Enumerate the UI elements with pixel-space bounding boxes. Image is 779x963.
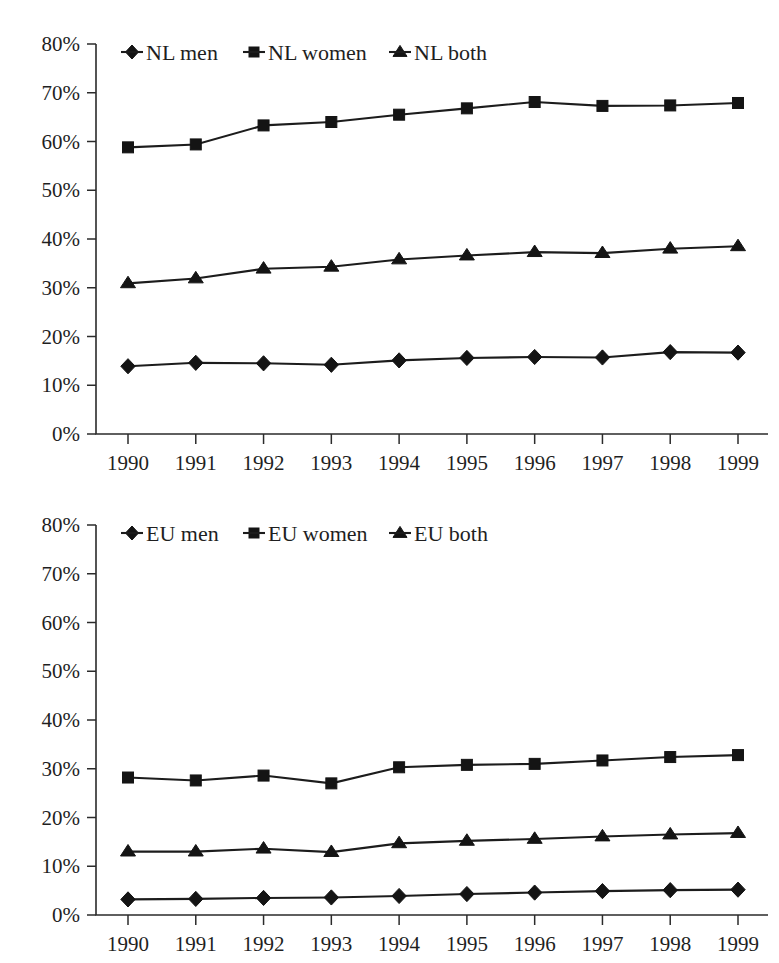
series-line-eu-women	[128, 755, 738, 783]
diamond-marker	[663, 883, 677, 898]
x-axis-tick-label: 1996	[514, 932, 556, 956]
x-axis-tick-label: 1997	[581, 932, 623, 956]
square-marker	[461, 103, 472, 114]
x-axis-tick-label: 1992	[243, 451, 285, 475]
square-marker	[461, 759, 472, 770]
series-markers-nl-both	[121, 239, 746, 288]
series-line-nl-men	[128, 352, 738, 366]
x-axis-tick-label: 1995	[446, 932, 488, 956]
x-axis-tick-label: 1997	[581, 451, 623, 475]
line-chart-eu: 0%10%20%30%40%50%60%70%80%19901991199219…	[0, 481, 779, 962]
diamond-marker	[392, 353, 406, 368]
square-marker	[123, 772, 134, 783]
y-axis-tick-label: 40%	[42, 708, 81, 732]
x-axis-tick-label: 1992	[243, 932, 285, 956]
y-axis-tick-label: 10%	[42, 373, 81, 397]
diamond-marker	[121, 359, 135, 374]
series-line-eu-both	[128, 833, 738, 852]
x-axis-tick-label: 1990	[107, 932, 149, 956]
legend-label: NL both	[414, 40, 487, 65]
triangle-marker	[188, 844, 203, 856]
y-axis-tick-label: 10%	[42, 854, 81, 878]
legend-label: NL women	[268, 40, 367, 65]
diamond-marker	[460, 350, 474, 365]
diamond-marker	[189, 891, 203, 906]
diamond-marker	[595, 884, 609, 899]
y-axis-tick-label: 30%	[42, 276, 81, 300]
x-axis-tick-label: 1996	[514, 451, 556, 475]
x-axis-tick-label: 1990	[107, 451, 149, 475]
y-axis-tick-label: 50%	[42, 178, 81, 202]
square-marker	[529, 758, 540, 769]
triangle-marker	[459, 248, 474, 260]
diamond-marker	[731, 882, 745, 897]
x-axis-tick-label: 1994	[378, 451, 421, 475]
diamond-marker	[324, 890, 338, 905]
y-axis-tick-label: 40%	[42, 227, 81, 251]
triangle-marker	[392, 252, 407, 264]
triangle-marker	[663, 827, 678, 839]
square-marker	[258, 120, 269, 131]
legend-item-nl-both: NL both	[389, 40, 487, 65]
legend-item-eu-both: EU both	[389, 521, 488, 546]
y-axis-tick-label: 80%	[42, 513, 81, 537]
line-chart-nl: 0%10%20%30%40%50%60%70%80%19901991199219…	[0, 0, 779, 481]
triangle-marker	[731, 826, 746, 838]
series-line-nl-both	[128, 246, 738, 283]
y-axis-tick-label: 60%	[42, 130, 81, 154]
y-axis-tick-label: 30%	[42, 757, 81, 781]
figure-page: 0%10%20%30%40%50%60%70%80%19901991199219…	[0, 0, 779, 963]
square-marker	[665, 100, 676, 111]
legend-triangle-marker-icon	[393, 526, 407, 537]
triangle-marker	[663, 242, 678, 254]
square-marker	[394, 762, 405, 773]
square-marker	[394, 109, 405, 120]
square-marker	[326, 778, 337, 789]
square-marker	[190, 775, 201, 786]
y-axis-tick-label: 60%	[42, 611, 81, 635]
x-axis-tick-label: 1991	[175, 932, 217, 956]
y-axis-tick-label: 70%	[42, 562, 81, 586]
x-axis-tick-label: 1993	[310, 932, 352, 956]
triangle-marker	[527, 245, 542, 257]
legend-item-eu-men: EU men	[121, 521, 219, 546]
y-axis-tick-label: 0%	[52, 422, 80, 446]
triangle-marker	[527, 832, 542, 844]
legend-triangle-marker-icon	[393, 45, 407, 56]
square-marker	[665, 752, 676, 763]
chart-panel-eu: 0%10%20%30%40%50%60%70%80%19901991199219…	[0, 481, 779, 962]
x-axis-tick-label: 1995	[446, 451, 488, 475]
square-marker	[258, 770, 269, 781]
series-markers-eu-women	[123, 750, 744, 789]
y-axis-tick-label: 70%	[42, 81, 81, 105]
diamond-marker	[189, 355, 203, 370]
triangle-marker	[256, 842, 271, 854]
triangle-marker	[256, 262, 271, 274]
square-marker	[326, 117, 337, 128]
square-marker	[597, 100, 608, 111]
y-axis-tick-label: 0%	[52, 903, 80, 927]
chart-axes	[96, 525, 768, 915]
square-marker	[597, 755, 608, 766]
diamond-marker	[460, 886, 474, 901]
diamond-marker	[121, 892, 135, 907]
x-axis-tick-label: 1993	[310, 451, 352, 475]
triangle-marker	[121, 844, 136, 856]
diamond-marker	[392, 888, 406, 903]
y-axis-tick-label: 50%	[42, 659, 81, 683]
diamond-marker	[324, 357, 338, 372]
y-axis-tick-label: 20%	[42, 325, 81, 349]
x-axis-tick-label: 1999	[717, 932, 759, 956]
x-axis-tick-label: 1998	[649, 932, 691, 956]
chart-panel-nl: 0%10%20%30%40%50%60%70%80%19901991199219…	[0, 0, 779, 481]
diamond-marker	[527, 885, 541, 900]
legend-label: NL men	[146, 40, 218, 65]
diamond-marker	[595, 350, 609, 365]
diamond-marker	[256, 356, 270, 371]
x-axis-tick-label: 1994	[378, 932, 421, 956]
legend-item-nl-men: NL men	[121, 40, 218, 65]
diamond-marker	[663, 345, 677, 360]
square-marker	[733, 750, 744, 761]
square-marker	[123, 142, 134, 153]
diamond-marker	[256, 890, 270, 905]
